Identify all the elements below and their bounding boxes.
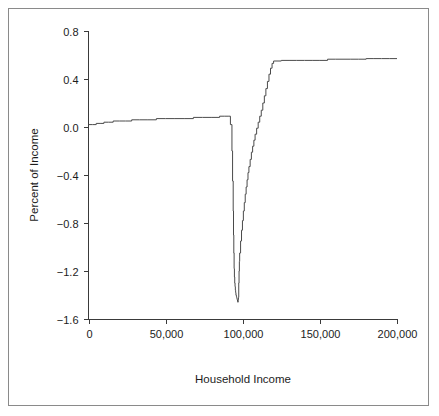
y-tick-label: −0.4: [57, 170, 79, 182]
y-tick-label: −1.2: [57, 266, 79, 278]
x-tick-label: 100,000: [224, 328, 264, 340]
data-series-line: [89, 59, 398, 303]
y-tick-label: −1.6: [57, 314, 79, 326]
x-tick-label: 0: [86, 328, 92, 340]
x-tick-label: 50,000: [150, 328, 184, 340]
y-axis-tick-labels: −1.6−1.2−0.8−0.40.00.40.8: [57, 26, 79, 326]
x-axis-title: Household Income: [195, 373, 291, 385]
x-tick-label: 200,000: [378, 328, 418, 340]
y-tick-label: 0.4: [63, 74, 78, 86]
y-tick-label: 0.0: [63, 122, 78, 134]
x-tick-label: 150,000: [301, 328, 341, 340]
figure-container: −1.6−1.2−0.8−0.40.00.40.8 050,000100,000…: [0, 0, 439, 416]
x-axis-tick-labels: 050,000100,000150,000200,000: [86, 328, 417, 340]
y-axis-title: Percent of Income: [28, 128, 40, 221]
chart-plot: −1.6−1.2−0.8−0.40.00.40.8 050,000100,000…: [0, 0, 439, 416]
y-tick-label: −0.8: [57, 218, 79, 230]
y-axis-ticks: [84, 32, 89, 320]
y-tick-label: 0.8: [63, 26, 78, 38]
